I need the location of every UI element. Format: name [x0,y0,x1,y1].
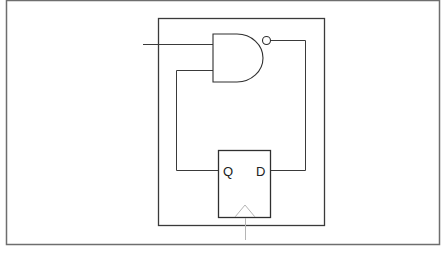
nand-inversion-bubble [263,37,271,45]
d-flip-flop [219,151,271,218]
feedback-wire-q [177,71,219,171]
circuit-diagram: Q D [0,0,446,253]
output-wire-d [270,41,306,171]
nand-gate [213,34,263,82]
pin-q-label: Q [223,164,233,179]
pin-d-label: D [256,164,265,179]
